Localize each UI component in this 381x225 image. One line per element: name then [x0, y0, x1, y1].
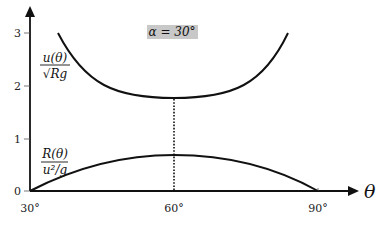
x-tick-label: 60° — [164, 202, 184, 215]
y-tick-label: 2 — [14, 80, 21, 93]
label-u-series: u(θ) √Rg — [40, 51, 70, 81]
y-axis-arrow-icon — [25, 6, 35, 17]
label-r-series: R(θ) u²/g — [41, 147, 68, 177]
y-tick-label: 1 — [14, 133, 21, 146]
x-tick-label: 90° — [308, 202, 328, 215]
x-tick-label: 30° — [20, 202, 40, 215]
y-tick-label: 3 — [14, 27, 21, 40]
x-axis-label: θ — [364, 180, 376, 202]
annotation-alpha: α = 30° — [148, 25, 195, 39]
u-label-numerator: u(θ) — [43, 51, 68, 65]
chart-canvas: 0 1 2 3 30° 60° 90° θ α = 30° u(θ) √Rg R… — [0, 0, 381, 225]
y-tick-label: 0 — [14, 185, 21, 198]
series-u-curve — [58, 33, 288, 98]
u-label-denominator: √Rg — [43, 67, 68, 81]
r-label-numerator: R(θ) — [41, 147, 68, 161]
x-axis-arrow-icon — [348, 186, 359, 196]
x-ticks: 30° 60° 90° — [20, 188, 328, 215]
y-ticks: 0 1 2 3 — [14, 27, 30, 198]
r-label-denominator: u²/g — [43, 163, 68, 177]
